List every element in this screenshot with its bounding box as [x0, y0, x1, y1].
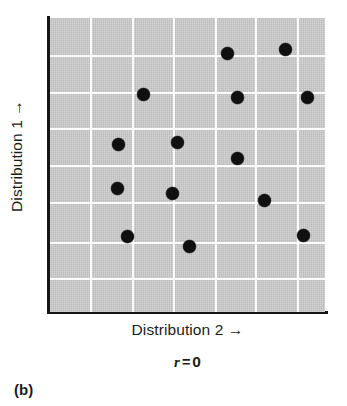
- data-point: [137, 88, 150, 101]
- gridline-horizontal-4: [50, 165, 325, 167]
- y-axis-label: Distribution 1 →: [0, 0, 34, 312]
- data-point: [221, 47, 234, 60]
- data-point: [258, 194, 271, 207]
- gridline-horizontal-3: [50, 128, 325, 130]
- r-value: 0: [192, 353, 201, 370]
- equals-sign: =: [180, 354, 192, 370]
- gridline-horizontal-5: [50, 202, 325, 204]
- gridline-horizontal-7: [50, 278, 325, 280]
- data-point: [231, 91, 244, 104]
- data-point: [301, 91, 314, 104]
- x-axis-label: Distribution 2 →: [50, 321, 325, 339]
- data-point: [297, 229, 310, 242]
- gridline-horizontal-2: [50, 92, 325, 94]
- data-point: [171, 136, 184, 149]
- panel-label: (b): [14, 381, 33, 398]
- data-point: [166, 187, 179, 200]
- data-point: [183, 240, 196, 253]
- plot-area: [50, 18, 325, 312]
- scatter-figure: Distribution 1 → Distribution 2 → r=0 (b…: [0, 0, 347, 406]
- data-point: [112, 138, 125, 151]
- data-point: [121, 230, 134, 243]
- data-point: [279, 43, 292, 56]
- correlation-annotation: r=0: [50, 353, 325, 371]
- data-point: [111, 182, 124, 195]
- r-symbol: r: [174, 354, 180, 370]
- data-point: [231, 152, 244, 165]
